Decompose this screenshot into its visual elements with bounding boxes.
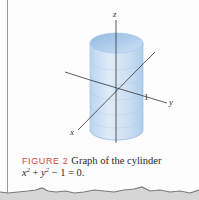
cylinder-graph xyxy=(0,0,199,150)
caption-equation: x2 + y2 − 1 = 0. xyxy=(22,167,84,178)
torn-page-edge xyxy=(0,186,199,200)
y-axis-label: y xyxy=(169,98,173,107)
caption-text: Graph of the cylinder xyxy=(71,155,161,166)
unit-tick-label: 1 xyxy=(144,93,149,102)
cylinder-top xyxy=(90,33,143,53)
figure-caption: FIGURE 2Graph of the cylinder x2 + y2 − … xyxy=(22,155,197,179)
textbook-page: z y x 1 FIGURE 2Graph of the cylinder x2… xyxy=(0,0,199,200)
x-axis-back-segment xyxy=(143,52,155,64)
y-axis-back-segment xyxy=(65,72,90,80)
z-axis-label: z xyxy=(113,10,117,19)
cylinder-body xyxy=(90,43,143,140)
figure-number: FIGURE 2 xyxy=(22,156,68,166)
x-axis-label: x xyxy=(70,128,74,137)
cylinder-figure: z y x 1 xyxy=(0,0,199,150)
